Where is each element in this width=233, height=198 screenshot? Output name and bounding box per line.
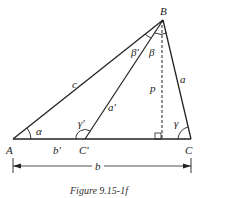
angle-beta-prime-arc [145,34,151,38]
side-c [13,20,163,139]
angle-label-gamma: γ [174,117,179,129]
angle-label-gamma-prime: γ′ [78,117,85,129]
right-angle-marker [155,133,161,139]
dimension-label-b: b [95,160,101,172]
angle-label-beta-prime: β′ [130,46,139,58]
vertex-label-c: C [185,144,193,156]
vertex-label-a: A [5,144,13,156]
angle-alpha-arc [27,128,31,139]
angle-beta-arc [155,33,167,34]
side-label-p: p [149,82,156,94]
triangle-diagram: B A C′ C c a a′ p b′ α γ′ γ β′ β b Figur… [0,0,233,198]
side-a-prime [85,20,163,139]
arrowhead-left-icon [13,164,21,169]
angle-label-beta: β [148,46,155,58]
side-label-b-prime: b′ [53,144,62,156]
vertex-label-b: B [160,5,167,17]
angle-gamma-arc [178,127,188,139]
figure-caption: Figure 9.15-1f [69,185,129,196]
side-label-a-prime: a′ [108,101,117,113]
side-label-a: a [180,73,186,85]
angle-label-alpha: α [36,125,42,137]
vertex-label-c-prime: C′ [79,144,89,156]
side-label-c: c [72,78,77,90]
arrowhead-right-icon [183,164,191,169]
